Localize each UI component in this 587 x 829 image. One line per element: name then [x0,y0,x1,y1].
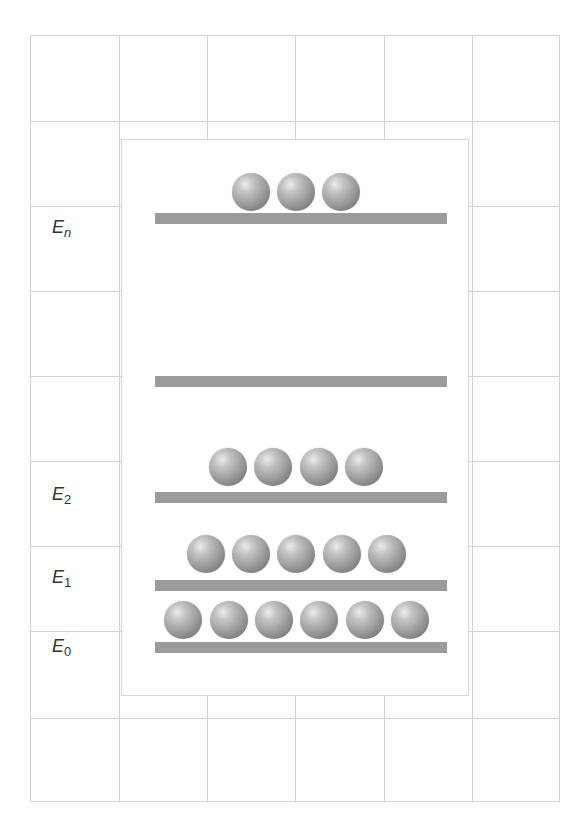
particle-ball-icon [254,448,292,486]
grid-line-horizontal [31,718,559,719]
level-label-e1: E1 [52,568,71,589]
level-label-e2: E2 [52,485,71,506]
energy-level-bar-e1 [155,580,447,591]
particle-ball-icon [391,601,429,639]
level-label-e0: E0 [52,637,71,658]
label-subscript: 0 [64,644,71,659]
particle-ball-icon [164,601,202,639]
particle-ball-icon [187,535,225,573]
energy-level-bar-intermediate [155,376,447,387]
energy-level-bar-en [155,213,447,224]
particle-ball-icon [300,448,338,486]
grid-line-horizontal [31,121,559,122]
label-subscript: n [64,225,71,240]
particle-ball-icon [277,535,315,573]
label-main: E [52,567,64,587]
particle-ball-icon [209,448,247,486]
label-subscript: 2 [64,492,71,507]
label-main: E [52,636,64,656]
label-main: E [52,484,64,504]
energy-level-bar-e2 [155,492,447,503]
particle-ball-icon [232,173,270,211]
particle-ball-icon [345,448,383,486]
particle-ball-icon [210,601,248,639]
particle-ball-icon [323,535,361,573]
grid-line-vertical [119,36,120,801]
level-label-en: En [52,218,71,239]
particle-ball-icon [322,173,360,211]
particle-ball-icon [368,535,406,573]
energy-level-bar-e0 [155,642,447,653]
particle-ball-icon [255,601,293,639]
grid-line-vertical [472,36,473,801]
particle-ball-icon [300,601,338,639]
label-subscript: 1 [64,575,71,590]
particle-ball-icon [232,535,270,573]
particle-ball-icon [346,601,384,639]
label-main: E [52,217,64,237]
particle-ball-icon [277,173,315,211]
